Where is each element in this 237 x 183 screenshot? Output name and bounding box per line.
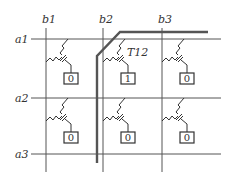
- transistor-gate: [162, 57, 178, 62]
- transistor-source: [122, 60, 128, 73]
- cell-value: 0: [68, 73, 74, 84]
- cell-r2-c2: 0: [103, 98, 135, 143]
- transistor-source: [122, 119, 128, 132]
- transistor-drain: [117, 39, 125, 55]
- transistor-drain: [176, 98, 184, 114]
- transistor-source: [65, 60, 71, 73]
- transistor-drain: [60, 39, 68, 55]
- transistor-gate: [103, 116, 119, 121]
- cell-value: 0: [184, 73, 190, 84]
- cell-value: 0: [184, 132, 190, 143]
- transistor-source: [65, 119, 71, 132]
- row-label-a2: a2: [15, 92, 29, 105]
- transistor-source: [181, 119, 187, 132]
- column-label-b2: b2: [99, 13, 113, 26]
- row-label-a3: a3: [15, 148, 29, 161]
- transistor-source: [181, 60, 187, 73]
- transistor-drain: [176, 39, 184, 55]
- transistor-gate: [103, 57, 119, 62]
- transistor-gate: [46, 116, 62, 121]
- cell-r1-c1: 0: [46, 39, 78, 84]
- memory-array-diagram: b1 b2 b3 a1 a2 a3 0 1 T12 0: [0, 0, 237, 183]
- cell-value: 1: [125, 73, 131, 84]
- cell-value: 0: [125, 132, 131, 143]
- cell-r2-c3: 0: [162, 98, 194, 143]
- transistor-drain: [117, 98, 125, 114]
- column-label-b1: b1: [42, 13, 56, 26]
- transistor-drain: [60, 98, 68, 114]
- cell-value: 0: [68, 132, 74, 143]
- transistor-gate: [46, 57, 62, 62]
- transistor-gate: [162, 116, 178, 121]
- cell-r2-c1: 0: [46, 98, 78, 143]
- row-label-a1: a1: [15, 33, 29, 46]
- cell-r1-c3: 0: [162, 39, 194, 84]
- transistor-label-t12: T12: [127, 46, 148, 59]
- column-label-b3: b3: [158, 13, 172, 26]
